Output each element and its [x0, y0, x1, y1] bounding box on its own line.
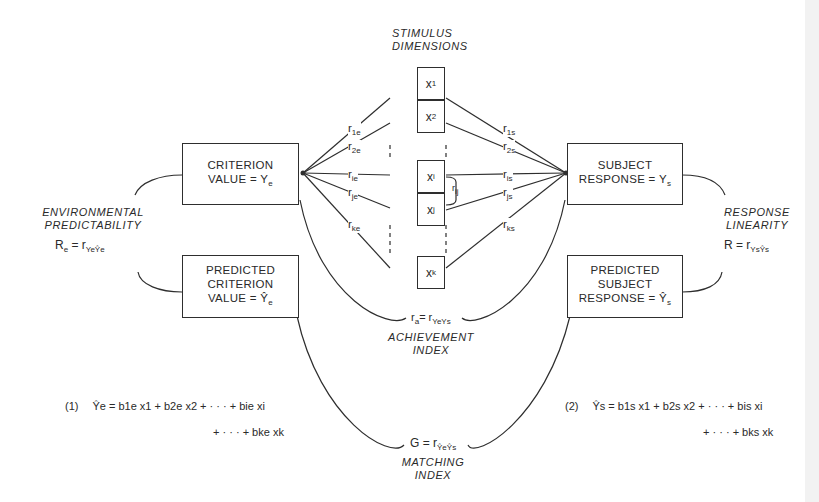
weight-rjs: rjs — [503, 186, 513, 201]
weight-rie: rie — [348, 168, 358, 183]
weight-rke: rke — [348, 218, 360, 233]
environmental-predictability-formula: Re = rYeŶe — [55, 238, 105, 254]
response-linearity-formula: R = rYsŶs — [724, 238, 769, 254]
stimulus-box-xj: xj — [417, 193, 445, 226]
weight-rks: rks — [503, 218, 515, 233]
inter-cue-correlation-label: rij — [452, 183, 459, 196]
equation-2-line-2: + · · · + bks xk — [703, 426, 773, 438]
achievement-index-label: ACHIEVEMENT INDEX — [386, 331, 476, 357]
achievement-formula: ra= rYeYs — [411, 311, 451, 326]
weight-r2e: r2e — [348, 140, 361, 155]
weight-r1e: r1e — [348, 122, 361, 137]
stimulus-box-xi: xi — [417, 160, 445, 193]
environmental-predictability-label: ENVIRONMENTAL PREDICTABILITY — [38, 206, 148, 232]
predicted-criterion-box: PREDICTED CRITERION VALUE = Ŷe — [182, 255, 299, 318]
weight-ris: ris — [503, 168, 513, 183]
equation-2-line-1: (2)Ŷs = b1s x1 + b2s x2 + · · · + bis xi — [565, 400, 762, 412]
matching-formula: G = rŶeŶs — [410, 436, 456, 452]
stimulus-box-x1: x1 — [417, 67, 445, 100]
stimulus-box-x2: x2 — [417, 100, 445, 133]
weight-r2s: r2s — [503, 140, 515, 155]
subject-response-box: SUBJECT RESPONSE = Ys — [567, 143, 683, 205]
predicted-subject-box: PREDICTED SUBJECT RESPONSE = Ŷs — [567, 255, 683, 318]
weight-r1s: r1s — [503, 122, 515, 137]
line-x1-left — [303, 98, 390, 173]
matching-index-label: MATCHING INDEX — [398, 456, 468, 482]
weight-rje: rje — [348, 186, 358, 201]
stimulus-box-xk: xk — [417, 256, 445, 289]
criterion-value-box: CRITERION VALUE = Ye — [182, 143, 299, 205]
response-linearity-label: RESPONSE LINEARITY — [718, 206, 796, 232]
stimulus-dimensions-title: STIMULUS DIMENSIONS — [392, 27, 447, 53]
equation-1-line-2: + · · · + bke xk — [213, 426, 284, 438]
equation-1-line-1: (1)Ŷe = b1e x1 + b2e x2 + · · · + bie xi — [65, 400, 265, 412]
connector-lines — [0, 0, 819, 502]
